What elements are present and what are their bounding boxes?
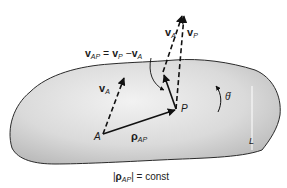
point-p-label: P [181, 104, 188, 114]
label-va-at-p: vA [165, 27, 176, 39]
line-l-label: L [249, 137, 254, 146]
label-rho-ap: ρAP [131, 131, 147, 143]
caption: |ρAP| = const [113, 172, 169, 183]
point-a-label: A [94, 132, 101, 142]
equation-label: vAP = vP −vA [85, 48, 142, 60]
rigid-body-shape [10, 59, 280, 164]
rigid-body-diagram [0, 0, 287, 188]
theta-dot-label: θ̇ [225, 92, 230, 102]
label-vp: vP [187, 27, 198, 39]
label-va-at-a: vA [99, 83, 110, 95]
